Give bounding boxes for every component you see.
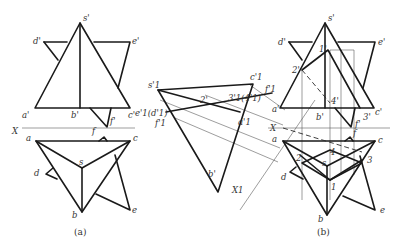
label-b-prime: b' — [71, 110, 79, 120]
label-e1-d1-prime: e'1(d'1) — [135, 108, 168, 118]
label-f1-prime: f'1 — [154, 118, 166, 128]
panel-a: s' d' e' a' b' c' f' X a c f s d e b (a) — [11, 13, 139, 237]
label-e-prime: e' — [132, 36, 139, 46]
label-1: 1 — [331, 182, 336, 192]
label-b-b: b — [318, 214, 323, 224]
label-c-b: c — [378, 135, 383, 145]
label-c: c — [133, 133, 138, 143]
label-e-b: e — [380, 205, 385, 215]
label-b-prime-b: b' — [316, 112, 324, 122]
label-f-prime: f' — [109, 116, 115, 126]
label-3-4-prime: 3'1(4'1) — [228, 93, 261, 103]
panel-b: s' d' e' 1' 2' 4' a' b' c' 3' f' X a c f… — [268, 13, 390, 237]
label-a-prime: a' — [22, 110, 29, 120]
label-b: b — [72, 210, 77, 220]
label-f: f — [91, 126, 97, 136]
label-d-prime-b: d' — [278, 37, 286, 47]
intersection-plan-edge — [330, 160, 362, 180]
label-a1-prime: a'1 — [238, 117, 251, 127]
label-c1-prime: c'1 — [250, 72, 263, 82]
label-2-prime-b: 2' — [291, 65, 300, 75]
label-a: a — [26, 133, 31, 143]
x1-axis-line — [240, 100, 315, 210]
caption-b: (b) — [317, 227, 330, 237]
plane-def-front-edge — [90, 108, 111, 127]
label-d: d — [34, 168, 40, 178]
label-s: s — [79, 157, 84, 167]
label-x1-axis: X1 — [231, 185, 243, 195]
label-e-prime-b: e' — [378, 37, 385, 47]
label-a-prime-b: a' — [272, 104, 279, 114]
label-d-b: d — [281, 172, 287, 182]
descriptive-geometry-figure: s' d' e' a' b' c' f' X a c f s d e b (a)… — [0, 0, 398, 249]
label-f1-prime-top: f'1 — [264, 84, 276, 94]
label-f-b: f — [352, 128, 358, 138]
label-4: 4 — [329, 147, 335, 157]
pyramid-front-outline — [35, 23, 130, 108]
label-e: e — [132, 205, 137, 215]
plane-def-front-edge — [44, 42, 58, 60]
plane-def-front-edge — [338, 42, 375, 88]
label-s1-prime: s'1 — [148, 80, 160, 90]
label-a-b: a — [272, 134, 277, 144]
label-3-prime: 3' — [363, 112, 371, 122]
label-2-prime: 2' — [199, 95, 208, 105]
label-x-axis-b: X — [269, 123, 277, 133]
pyramid-plan-edge — [82, 141, 130, 168]
label-c-prime-b: c' — [375, 107, 382, 117]
projection-line — [175, 118, 278, 162]
plane-def-plan-edge — [290, 167, 303, 179]
label-3: 3 — [367, 155, 372, 165]
label-1-prime: 1' — [319, 44, 327, 54]
label-d-prime: d' — [33, 36, 41, 46]
plane-def-front-edge — [335, 108, 355, 127]
label-s-prime: s' — [83, 13, 90, 23]
plane-def-front-edge — [94, 42, 130, 88]
caption-a: (a) — [74, 227, 86, 237]
plane-def-front-edge — [289, 42, 302, 60]
label-4-prime: 4' — [330, 96, 339, 106]
label-x-axis: X — [11, 126, 19, 136]
label-b-prime-aux: b' — [208, 169, 216, 179]
label-2: 2 — [295, 153, 301, 163]
label-s-prime-b: s' — [328, 13, 335, 23]
label-s-b: s — [322, 158, 327, 168]
pyramid-plan-edge — [36, 141, 82, 168]
